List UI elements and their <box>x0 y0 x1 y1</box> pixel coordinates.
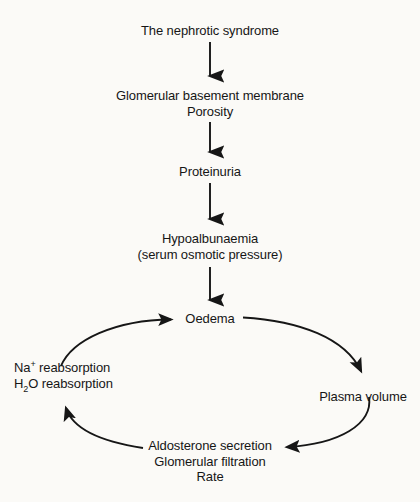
node-proteinuria: Proteinuria <box>179 164 241 180</box>
node-reabsorption-line-2: H2O reabsorption <box>14 376 113 392</box>
node-hypoalbunaemia: Hypoalbunaemia (serum osmotic pressure) <box>138 231 283 262</box>
node-aldosterone-gfr-line-3: Rate <box>148 469 272 485</box>
node-aldosterone-gfr-line-2: Glomerular filtration <box>148 454 272 470</box>
arrow-oedema-to-plasma-volume <box>243 318 361 372</box>
node-aldosterone-gfr: Aldosterone secretion Glomerular filtrat… <box>148 438 272 485</box>
node-hypoalbunaemia-line-2: (serum osmotic pressure) <box>138 247 283 263</box>
node-nephrotic-syndrome: The nephrotic syndrome <box>141 23 279 39</box>
node-reabsorption-line-2-prefix: H <box>14 376 23 391</box>
node-reabsorption-line-1-prefix: Na <box>14 360 30 375</box>
node-reabsorption: Na+ reabsorption H2O reabsorption <box>14 360 113 391</box>
node-oedema: Oedema <box>185 311 234 327</box>
node-plasma-volume-line-1: Plasma volume <box>319 389 407 405</box>
node-gbm-porosity-line-1: Glomerular basement membrane <box>116 88 304 104</box>
node-gbm-porosity-line-2: Porosity <box>116 104 304 120</box>
arrow-aldosterone-to-reabsorption <box>66 408 143 448</box>
node-reabsorption-line-1-suffix: reabsorption <box>36 360 111 375</box>
node-nephrotic-syndrome-line-1: The nephrotic syndrome <box>141 23 279 39</box>
node-oedema-line-1: Oedema <box>185 311 234 327</box>
node-proteinuria-line-1: Proteinuria <box>179 164 241 180</box>
node-gbm-porosity: Glomerular basement membrane Porosity <box>116 88 304 119</box>
node-reabsorption-line-2-suffix: O reabsorption <box>28 376 113 391</box>
flowchart-diagram: The nephrotic syndrome Glomerular baseme… <box>0 0 420 502</box>
node-plasma-volume: Plasma volume <box>319 389 407 405</box>
node-reabsorption-line-1: Na+ reabsorption <box>14 360 113 376</box>
node-aldosterone-gfr-line-1: Aldosterone secretion <box>148 438 272 454</box>
node-hypoalbunaemia-line-1: Hypoalbunaemia <box>138 231 283 247</box>
arrow-plasma-volume-to-aldosterone <box>287 397 369 447</box>
